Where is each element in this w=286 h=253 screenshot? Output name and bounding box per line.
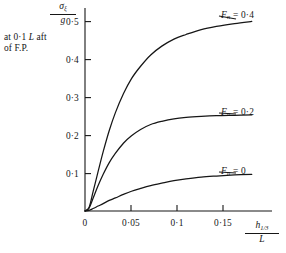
leader-line-fn-0 xyxy=(219,172,236,173)
plot-svg xyxy=(0,0,286,253)
leader-line-fn-04 xyxy=(219,16,236,19)
leader-line-fn-02 xyxy=(219,113,236,114)
x-tick-marks xyxy=(131,205,223,211)
curve-fn-04 xyxy=(85,21,252,211)
leader-lines xyxy=(219,16,236,173)
axes-group xyxy=(85,8,272,211)
curve-fn-0 xyxy=(85,174,252,211)
y-tick-marks xyxy=(85,22,91,174)
figure-container: at 0·1 L aft of F.P. σξ g h1/3 L 0·5 0·4… xyxy=(0,0,286,253)
data-curves xyxy=(85,21,252,211)
